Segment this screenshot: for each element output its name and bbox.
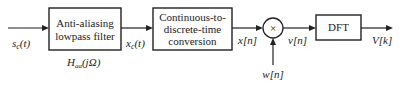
arrow-icon: [256, 25, 263, 31]
c2d-label-line2: discrete-time: [164, 23, 222, 35]
signal-label-xn: x[n]: [237, 34, 257, 46]
anti-aliasing-filter-block: [49, 8, 121, 50]
arrow-icon: [270, 38, 276, 45]
block-diagram: sc(t) Anti-aliasing lowpass filter Haa(j…: [0, 0, 409, 88]
signal-label-Vk: V[k]: [372, 34, 392, 46]
arrow-icon: [386, 25, 393, 31]
arrow-icon: [146, 25, 153, 31]
signal-label-xc: xc(t): [125, 37, 145, 51]
aa-filter-label-line2: lowpass filter: [55, 30, 115, 42]
signal-label-wn: w[n]: [262, 68, 283, 80]
arrow-icon: [42, 25, 49, 31]
aa-filter-label-line1: Anti-aliasing: [56, 17, 114, 29]
c2d-label-line3: conversion: [168, 35, 217, 47]
dft-label: DFT: [328, 21, 349, 33]
aa-filter-transfer-function: Haa(jΩ): [66, 56, 101, 70]
multiply-icon: ×: [270, 22, 276, 34]
signal-label-sc: sc(t): [12, 37, 31, 51]
c2d-label-line1: Continuous-to-: [159, 11, 226, 23]
arrow-icon: [309, 25, 316, 31]
signal-label-vn: v[n]: [288, 34, 307, 46]
